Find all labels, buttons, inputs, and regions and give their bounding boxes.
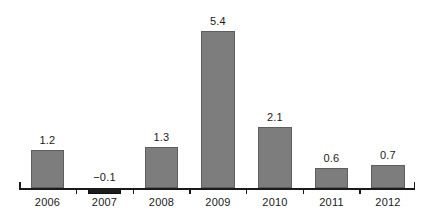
bar-2007[interactable] <box>88 189 121 194</box>
value-label-2006: 1.2 <box>27 134 68 146</box>
bar-chart: 1.2 −0.1 1.3 5.4 2.1 0.6 0.7 2006 2007 2… <box>0 0 432 217</box>
x-axis-label-2011: 2011 <box>311 196 352 208</box>
value-label-2009: 5.4 <box>197 15 239 27</box>
x-axis-tick-6 <box>359 188 361 194</box>
x-axis-right-end-tick <box>414 182 416 189</box>
x-axis-label-2006: 2006 <box>27 196 68 208</box>
value-label-2012: 0.7 <box>367 149 409 161</box>
x-axis-tick-5 <box>303 188 305 194</box>
x-axis-tick-4 <box>246 188 248 194</box>
value-label-2007: −0.1 <box>84 171 125 183</box>
x-axis-tick-2 <box>133 188 135 194</box>
bar-2009[interactable] <box>201 31 235 188</box>
x-axis-label-2012: 2012 <box>367 196 409 208</box>
x-axis-label-2007: 2007 <box>84 196 125 208</box>
x-axis-label-2009: 2009 <box>197 196 239 208</box>
bar-2012[interactable] <box>371 165 405 188</box>
x-axis-line <box>19 188 415 190</box>
plot-area: 1.2 −0.1 1.3 5.4 2.1 0.6 0.7 2006 2007 2… <box>0 0 432 217</box>
x-axis-left-end-tick <box>19 182 21 189</box>
x-axis-tick-1 <box>76 188 78 194</box>
bar-2006[interactable] <box>31 150 64 188</box>
x-axis-tick-3 <box>189 188 191 194</box>
bar-2010[interactable] <box>258 127 292 188</box>
x-axis-label-2010: 2010 <box>254 196 296 208</box>
x-axis-label-2008: 2008 <box>141 196 182 208</box>
value-label-2008: 1.3 <box>141 131 182 143</box>
value-label-2011: 0.6 <box>311 152 352 164</box>
value-label-2010: 2.1 <box>254 111 296 123</box>
bar-2008[interactable] <box>145 147 178 188</box>
bar-2011[interactable] <box>315 168 348 188</box>
